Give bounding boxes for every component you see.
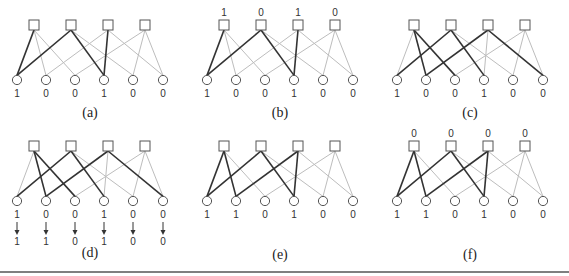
variable-node-label: 0	[43, 88, 49, 99]
variable-node-circle	[70, 196, 79, 205]
variable-node-label: 0	[160, 209, 166, 220]
variable-node-label: 0	[262, 209, 268, 220]
active-edge	[484, 151, 488, 196]
variable-node-circle	[538, 75, 547, 84]
check-node-square	[409, 20, 419, 30]
variable-node-circle	[392, 75, 401, 84]
check-node-square	[140, 141, 150, 151]
variable-node-label: 0	[510, 209, 516, 220]
variable-node-circle	[231, 75, 240, 84]
panel-c: 100100(c)	[392, 20, 547, 121]
check-node-square	[293, 141, 303, 151]
check-node-label: 1	[221, 7, 227, 18]
panel-b: 1010100100(b)	[202, 7, 357, 121]
variable-node-circle	[289, 196, 298, 205]
variable-node-label: 1	[204, 88, 210, 99]
variable-node-label: 0	[510, 88, 516, 99]
variable-node-circle	[479, 75, 488, 84]
variable-node-label: 1	[14, 209, 20, 220]
panel-e: 110100(e)	[202, 141, 357, 263]
panel-caption: (a)	[82, 105, 98, 121]
variable-node-circle	[392, 196, 401, 205]
check-node-square	[409, 141, 419, 151]
edge	[488, 151, 543, 196]
tanner-graph-figure: 100100(a)1010100100(b)100100(c)110100110…	[0, 0, 569, 276]
check-node-square	[140, 20, 150, 30]
variable-node-circle	[158, 75, 167, 84]
variable-node-label: 0	[540, 209, 546, 220]
check-node-square	[293, 20, 303, 30]
edge	[261, 151, 323, 196]
variable-node-circle	[202, 75, 211, 84]
check-node-square	[483, 141, 493, 151]
variable-node-circle	[508, 196, 517, 205]
arrow-head-icon	[102, 230, 107, 235]
variable-node-circle	[70, 75, 79, 84]
variable-node-circle	[479, 196, 488, 205]
edge	[451, 151, 513, 196]
panel-caption: (b)	[272, 105, 289, 121]
panel-caption: (d)	[82, 245, 99, 261]
check-node-square	[219, 20, 229, 30]
check-node-square	[103, 20, 113, 30]
active-edge	[294, 151, 298, 196]
active-edge	[108, 151, 163, 196]
active-edge	[104, 30, 108, 75]
variable-node-label: 0	[452, 88, 458, 99]
variable-node-circle	[231, 196, 240, 205]
panels-group: 100100(a)1010100100(b)100100(c)110100110…	[12, 7, 547, 263]
check-node-label: 0	[448, 128, 454, 139]
variable-node-label: 0	[540, 88, 546, 99]
check-node-label: 1	[295, 7, 301, 18]
variable-node-circle	[450, 75, 459, 84]
arrow-head-icon	[131, 230, 136, 235]
variable-node-circle	[158, 196, 167, 205]
updated-variable-label: 1	[101, 236, 107, 247]
variable-node-circle	[99, 75, 108, 84]
variable-node-label: 0	[423, 88, 429, 99]
variable-node-circle	[260, 196, 269, 205]
check-node-square	[103, 141, 113, 151]
variable-node-circle	[202, 196, 211, 205]
variable-node-label: 1	[101, 209, 107, 220]
variable-node-circle	[508, 75, 517, 84]
variable-node-label: 1	[481, 88, 487, 99]
variable-node-label: 0	[72, 209, 78, 220]
panel-d: 110100110000(d)	[12, 141, 167, 261]
check-node-label: 0	[485, 128, 491, 139]
variable-node-circle	[128, 196, 137, 205]
variable-node-circle	[421, 196, 430, 205]
check-node-square	[66, 141, 76, 151]
variable-node-circle	[289, 75, 298, 84]
variable-node-circle	[99, 196, 108, 205]
check-node-square	[483, 20, 493, 30]
arrow-head-icon	[161, 230, 166, 235]
variable-node-circle	[41, 196, 50, 205]
variable-node-label: 0	[130, 88, 136, 99]
variable-node-label: 1	[394, 209, 400, 220]
edge	[71, 30, 133, 75]
check-node-square	[219, 141, 229, 151]
check-node-square	[256, 141, 266, 151]
variable-node-circle	[348, 75, 357, 84]
check-node-square	[66, 20, 76, 30]
variable-node-circle	[450, 196, 459, 205]
variable-node-circle	[318, 196, 327, 205]
variable-node-label: 1	[101, 88, 107, 99]
check-node-label: 0	[258, 7, 264, 18]
panel-f: 0000110100(f)	[392, 128, 547, 263]
panel-caption: (e)	[272, 247, 288, 263]
check-node-square	[330, 20, 340, 30]
check-node-label: 0	[411, 128, 417, 139]
variable-node-label: 0	[43, 209, 49, 220]
arrow-head-icon	[15, 230, 20, 235]
variable-node-circle	[318, 75, 327, 84]
variable-node-label: 0	[320, 88, 326, 99]
check-node-label: 0	[332, 7, 338, 18]
variable-node-label: 0	[233, 88, 239, 99]
variable-node-label: 0	[350, 88, 356, 99]
active-edge	[294, 30, 298, 75]
check-node-square	[520, 20, 530, 30]
variable-node-label: 1	[481, 209, 487, 220]
variable-node-label: 0	[160, 88, 166, 99]
